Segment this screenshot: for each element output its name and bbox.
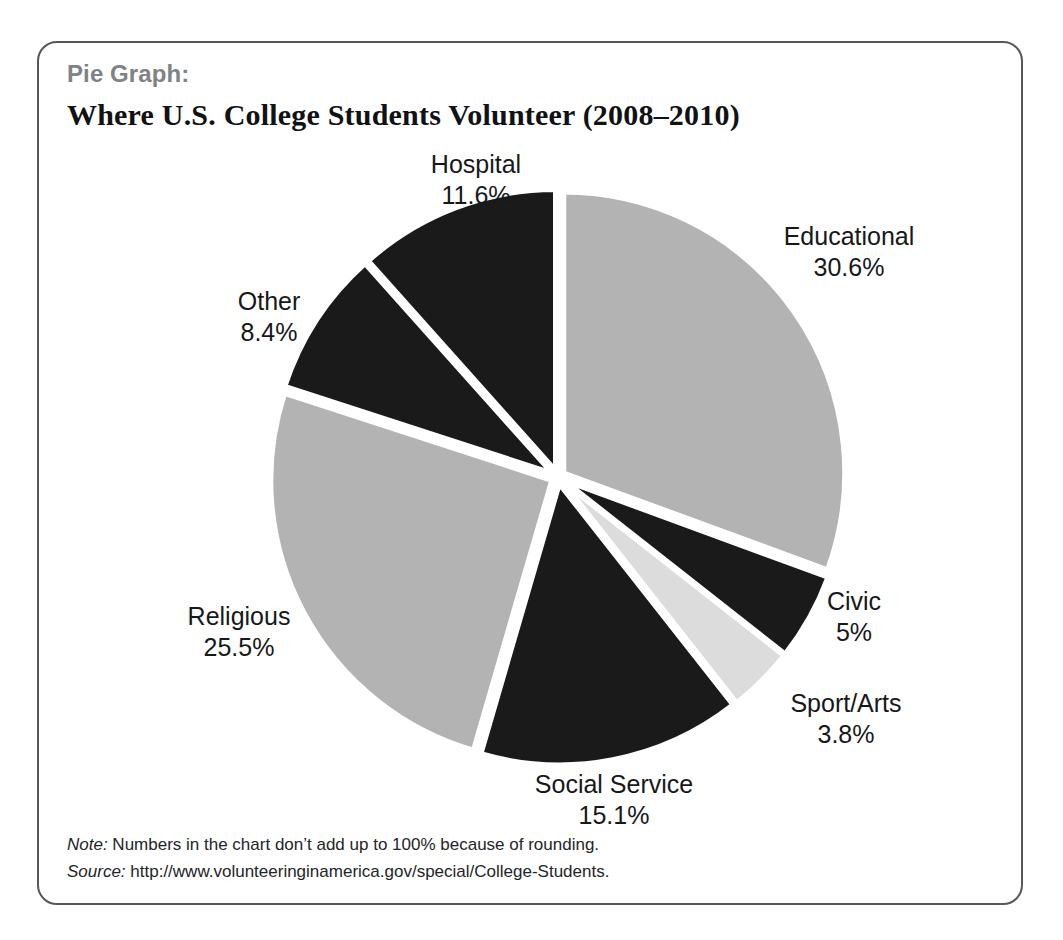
footnote-note-tag: Note: [67, 835, 108, 854]
pie-label-hospital: Hospital 11.6% [381, 149, 571, 211]
footnote-note: Note: Numbers in the chart don’t add up … [67, 832, 987, 858]
footnote-source-text: http://www.volunteeringinamerica.gov/spe… [126, 862, 610, 881]
pie-label-other-value: 8.4% [189, 317, 349, 348]
pie-label-religious: Religious 25.5% [139, 601, 339, 663]
footnote-source: Source: http://www.volunteeringinamerica… [67, 859, 987, 885]
pie-label-social-service: Social Service 15.1% [469, 769, 759, 831]
pie-label-educational-name: Educational [739, 221, 959, 252]
pie-chart-plot-area: Hospital 11.6% Educational 30.6% Civic 5… [39, 43, 1025, 907]
pie-label-sport-arts: Sport/Arts 3.8% [741, 688, 951, 750]
pie-label-hospital-name: Hospital [381, 149, 571, 180]
pie-label-other-name: Other [189, 286, 349, 317]
footnotes-block: Note: Numbers in the chart don’t add up … [67, 832, 987, 885]
pie-label-social-service-value: 15.1% [469, 800, 759, 831]
figure-card: Pie Graph: Where U.S. College Students V… [37, 41, 1023, 905]
pie-label-religious-name: Religious [139, 601, 339, 632]
pie-label-educational-value: 30.6% [739, 252, 959, 283]
pie-label-social-service-name: Social Service [469, 769, 759, 800]
pie-label-civic-name: Civic [779, 586, 929, 617]
pie-label-civic-value: 5% [779, 617, 929, 648]
pie-label-hospital-value: 11.6% [381, 180, 571, 211]
footnote-note-text: Numbers in the chart don’t add up to 100… [108, 835, 599, 854]
pie-label-religious-value: 25.5% [139, 632, 339, 663]
footnote-source-tag: Source: [67, 862, 126, 881]
pie-label-educational: Educational 30.6% [739, 221, 959, 283]
pie-label-sport-arts-value: 3.8% [741, 719, 951, 750]
pie-label-other: Other 8.4% [189, 286, 349, 348]
pie-label-civic: Civic 5% [779, 586, 929, 648]
pie-label-sport-arts-name: Sport/Arts [741, 688, 951, 719]
